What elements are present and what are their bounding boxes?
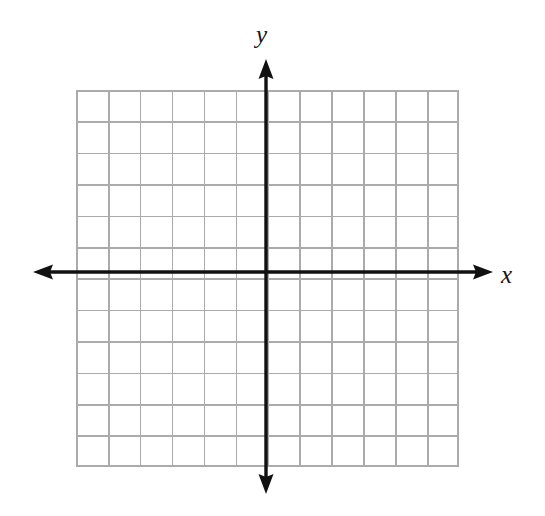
axes-svg xyxy=(0,0,545,516)
coordinate-plane-figure: y x xyxy=(0,0,545,516)
axes-layer xyxy=(0,0,545,516)
x-axis-left-arrowhead xyxy=(33,265,53,280)
x-axis-label: x xyxy=(501,262,512,287)
y-axis-label: y xyxy=(256,22,267,47)
y-axis-top-arrowhead xyxy=(259,59,274,79)
y-axis-bottom-arrowhead xyxy=(259,474,274,494)
x-axis-right-arrowhead xyxy=(473,265,493,280)
